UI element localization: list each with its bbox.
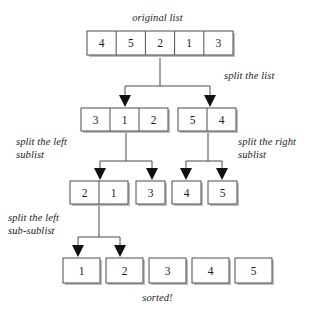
arrowhead-right-root bbox=[204, 95, 216, 107]
cell-value: 4 bbox=[99, 37, 105, 49]
cell-value: 4 bbox=[208, 265, 214, 277]
arrowhead-subsub-1 bbox=[72, 245, 84, 257]
list-row-sorted: 1 2 3 4 5 bbox=[63, 258, 274, 285]
connector-level-1-to-2-right bbox=[186, 133, 222, 168]
connector-level-0-to-1 bbox=[125, 58, 210, 95]
connector-level-2-to-3 bbox=[78, 206, 120, 245]
cell-value: 4 bbox=[219, 114, 225, 126]
list-row-split-2-group-c: 4 bbox=[172, 181, 203, 206]
caption-split-the-left-sublist: split the left sublist bbox=[16, 136, 67, 161]
list-row-original: 4 5 2 1 3 bbox=[87, 31, 235, 57]
caption-split-the-left-sub-sublist: split the left sub-sublist bbox=[8, 212, 59, 237]
cell-value: 5 bbox=[220, 187, 226, 199]
cell-value: 3 bbox=[216, 37, 222, 49]
caption-sorted: sorted! bbox=[0, 292, 315, 305]
list-row-split-1-right: 5 4 bbox=[178, 108, 238, 133]
cell-value: 4 bbox=[184, 187, 190, 199]
caption-original-list: original list bbox=[0, 12, 315, 25]
cell-value: 5 bbox=[128, 37, 134, 49]
caption-split-the-right-sublist: split the right sublist bbox=[238, 136, 296, 161]
cell-value: 1 bbox=[79, 265, 85, 277]
arrowhead-left-root bbox=[119, 95, 131, 107]
cell-value: 1 bbox=[186, 37, 192, 49]
list-row-split-1-left: 3 1 2 bbox=[81, 108, 170, 133]
list-row-split-2-group-a: 2 1 bbox=[70, 181, 130, 206]
cell-value: 3 bbox=[148, 187, 154, 199]
arrowhead-left-sub-1 bbox=[94, 168, 106, 180]
cell-value: 5 bbox=[190, 114, 196, 126]
cell-value: 1 bbox=[122, 114, 128, 126]
cell-value: 2 bbox=[151, 114, 157, 126]
arrowhead-right-sub-1 bbox=[180, 168, 192, 180]
cell-value: 5 bbox=[251, 265, 257, 277]
cell-value: 3 bbox=[93, 114, 99, 126]
list-row-split-2-group-b: 3 bbox=[136, 181, 167, 206]
cell-value: 1 bbox=[111, 187, 117, 199]
cell-value: 2 bbox=[82, 187, 88, 199]
caption-split-the-list: split the list bbox=[224, 70, 274, 83]
arrowhead-left-sub-2 bbox=[146, 168, 158, 180]
cell-value: 2 bbox=[157, 37, 163, 49]
cell-value: 3 bbox=[165, 265, 171, 277]
arrowhead-subsub-2 bbox=[114, 245, 126, 257]
list-row-split-2-group-d: 5 bbox=[208, 181, 239, 206]
arrowhead-right-sub-2 bbox=[216, 168, 228, 180]
connector-level-1-to-2-left bbox=[100, 133, 152, 168]
cell-value: 2 bbox=[122, 265, 128, 277]
